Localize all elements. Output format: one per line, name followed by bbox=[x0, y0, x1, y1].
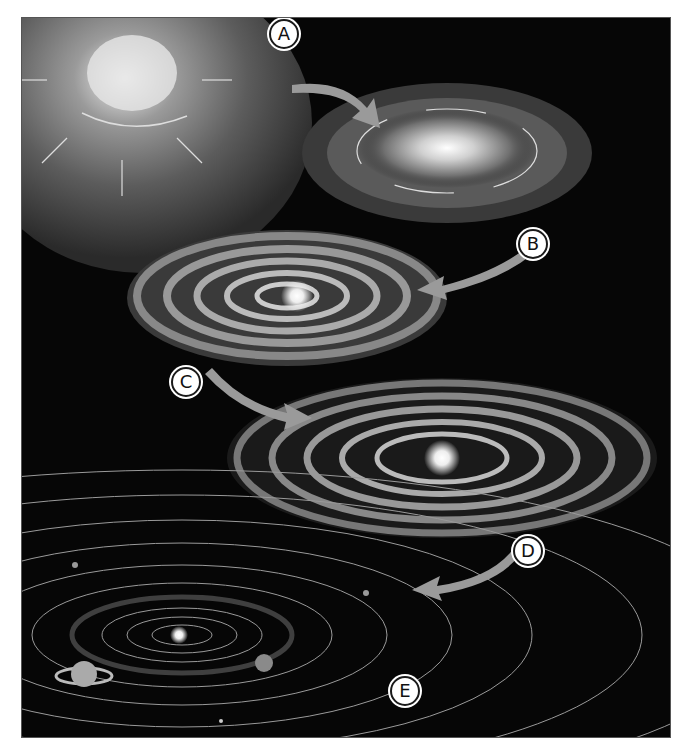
planet-jupiter bbox=[255, 654, 273, 672]
stage-label-a: A bbox=[269, 19, 299, 49]
sun bbox=[170, 626, 188, 644]
protoplanetary-disk bbox=[127, 230, 447, 366]
stage-label-b: B bbox=[518, 229, 548, 259]
stage-label-e: E bbox=[390, 676, 420, 706]
planet-small bbox=[363, 590, 369, 596]
stage-label-c: C bbox=[171, 367, 201, 397]
formation-illustration bbox=[22, 18, 670, 737]
arrow-d-icon bbox=[412, 548, 522, 601]
rotating-cloud bbox=[302, 83, 592, 223]
ringed-disk bbox=[227, 378, 657, 538]
planet-saturn bbox=[56, 661, 112, 687]
stage-label-d: D bbox=[513, 536, 543, 566]
planet-tiny bbox=[219, 719, 223, 723]
diagram-frame: A B C D E bbox=[21, 17, 671, 738]
planet-outer bbox=[72, 562, 78, 568]
